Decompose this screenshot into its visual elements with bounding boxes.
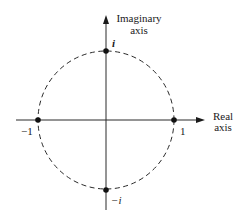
point-neg-i-label: −i bbox=[111, 194, 121, 206]
imaginary-axis-label-line1: Imaginary bbox=[116, 12, 162, 24]
point-i bbox=[103, 48, 109, 54]
point-1-label: 1 bbox=[180, 125, 186, 137]
point-i-label: i bbox=[112, 37, 116, 49]
point-1 bbox=[171, 117, 177, 123]
imaginary-axis-arrow-icon bbox=[103, 15, 109, 24]
real-axis-label-line2: axis bbox=[214, 121, 232, 133]
point-neg-i bbox=[103, 187, 109, 193]
imaginary-axis-label-line2: axis bbox=[130, 24, 148, 36]
point-neg-1-label: −1 bbox=[21, 125, 33, 137]
complex-plane-diagram: Imaginary axis Real axis i −i −1 1 bbox=[0, 0, 244, 220]
real-axis-arrow-icon bbox=[196, 117, 205, 123]
point-neg-1 bbox=[35, 117, 41, 123]
